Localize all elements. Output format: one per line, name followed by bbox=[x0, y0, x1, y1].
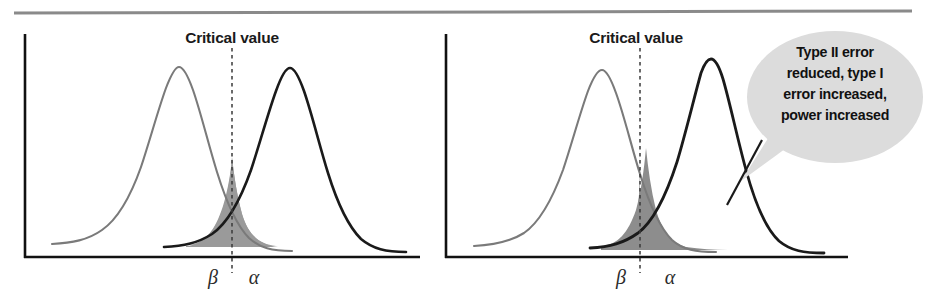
panel-left-critical-value-label: Critical value bbox=[185, 29, 279, 46]
panel-right-critical-value-label: Critical value bbox=[589, 29, 683, 46]
panel-right-beta-label: β bbox=[615, 266, 626, 289]
callout-line-4: power increased bbox=[781, 107, 889, 123]
callout-line-2: reduced, type I bbox=[787, 65, 883, 81]
panel-left-alpha-label: α bbox=[249, 266, 260, 288]
callout-line-1: Type II error bbox=[796, 44, 874, 60]
panel-left-beta-label: β bbox=[207, 266, 218, 289]
top-rule bbox=[14, 11, 912, 13]
panel-right-alpha-label: α bbox=[665, 266, 676, 288]
callout-line-3: error increased, bbox=[783, 86, 886, 102]
statistics-figure: Critical value β α Critical value β α bbox=[0, 0, 926, 295]
